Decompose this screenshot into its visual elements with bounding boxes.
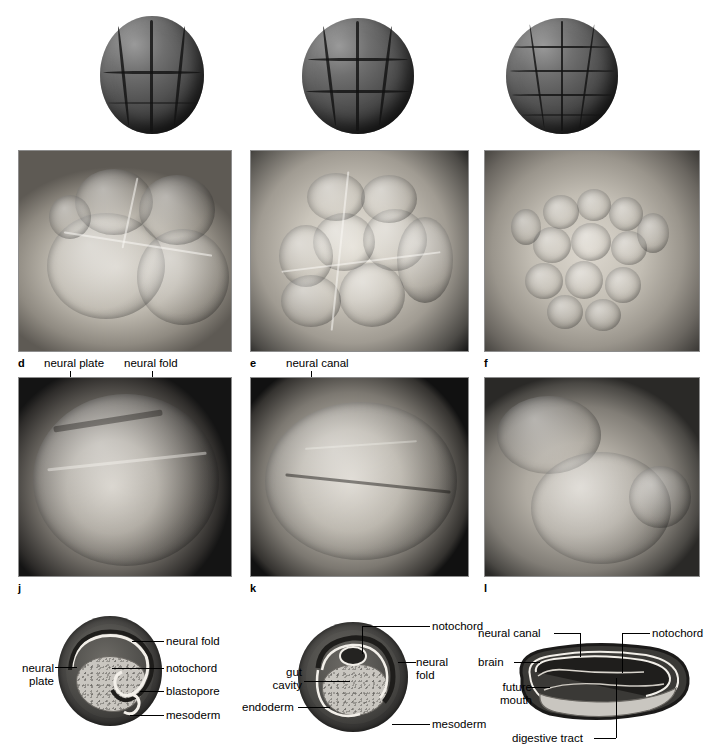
photo-panel-e: [250, 150, 469, 352]
panel-letter-k: k: [250, 583, 256, 594]
panel-letter-l: l: [484, 583, 487, 594]
label-gut-cavity: gut cavity: [250, 666, 302, 692]
cell-blob: [307, 173, 365, 221]
cell-blob: [637, 213, 669, 253]
panel-letter-f: f: [484, 358, 488, 369]
label-notochord: notochord: [652, 627, 703, 640]
label-digestive-tract: digestive tract: [512, 732, 583, 745]
embryo-tail: [629, 466, 691, 528]
furrow-equatorial-lower: [306, 90, 410, 93]
photo-panel-k: [250, 377, 469, 577]
model-8-cell: [100, 16, 204, 134]
leader-neural-plate: [55, 667, 77, 668]
diagram-neurula: neural plate neural fold notochord blast…: [0, 600, 236, 754]
leader-digestive-tract-v: [616, 678, 617, 738]
label-future-mouth: future mouth: [478, 681, 532, 707]
label-brain: brain: [478, 656, 504, 669]
label-blastopore: blastopore: [166, 685, 220, 698]
label-neural-fold: neural fold: [166, 635, 220, 648]
furrow-lower: [108, 102, 196, 104]
label-mesoderm: mesoderm: [166, 709, 220, 722]
leader-digestive-tract-h: [594, 738, 616, 739]
leader-blastopore: [140, 691, 164, 692]
label-endoderm: endoderm: [242, 701, 294, 714]
leader-gut-cavity: [304, 681, 350, 682]
neural-tube-shape: [298, 622, 408, 732]
model-16-cell: [302, 18, 414, 134]
callout-neural-fold: neural fold: [124, 357, 178, 370]
leader-notochord: [112, 668, 164, 669]
label-notochord: notochord: [166, 662, 217, 675]
photo-panel-l: [484, 377, 700, 577]
leader-mesoderm: [130, 715, 164, 716]
furrow-grid-h4: [522, 114, 602, 116]
label-neural-fold: neural fold: [416, 656, 472, 682]
leader-neural-canal-v: [580, 633, 581, 657]
cell-blob: [585, 299, 621, 331]
furrow-grid-h2: [510, 70, 614, 72]
photo-panel-j: [18, 377, 232, 577]
model-blastula: [506, 18, 618, 134]
cell-blob: [547, 295, 583, 329]
furrow-grid-h1: [514, 46, 610, 48]
leader-notochord-v: [622, 633, 623, 673]
furrow-grid-h3: [512, 94, 612, 96]
cell-blob: [571, 223, 611, 261]
diagram-neural-tube: notochord neural fold gut cavity endoder…: [236, 600, 476, 754]
cell-blob: [361, 175, 417, 223]
cell-blob: [577, 189, 611, 221]
label-neural-plate: neural plate: [2, 662, 54, 688]
cell-blob: [565, 261, 603, 299]
panel-letter-j: j: [18, 583, 21, 594]
photo-panel-f: [484, 150, 700, 352]
leader-future-mouth: [528, 687, 550, 688]
diagram-tailbud: neural canal brain future mouth notochor…: [476, 600, 712, 754]
photo-panel-d: [18, 150, 232, 352]
figure-root: d neural plate neural fold e neural cana…: [0, 0, 712, 754]
leader-neural-fold: [398, 662, 416, 663]
cell-blob: [339, 263, 405, 327]
cell-blob: [525, 263, 563, 299]
cell-blob: [139, 175, 215, 245]
leader-neural-fold: [132, 641, 164, 642]
callout-neural-plate: neural plate: [44, 357, 104, 370]
furrow-vertical: [150, 20, 153, 132]
furrow-equatorial-upper: [308, 58, 408, 61]
furrow-equatorial: [103, 71, 201, 74]
panel-letter-e: e: [250, 358, 256, 369]
label-neural-canal: neural canal: [478, 627, 541, 640]
neural-fold-shape: [58, 616, 162, 726]
callout-neural-canal: neural canal: [286, 357, 349, 370]
cell-blob: [397, 217, 453, 303]
leader-neural-canal-h: [554, 633, 580, 634]
leader-notochord-h: [362, 626, 430, 627]
leader-brain: [514, 662, 540, 663]
cell-blob: [543, 195, 579, 229]
cell-blob: [605, 267, 641, 303]
furrow-vertical: [356, 21, 359, 131]
panel-letter-d: d: [18, 358, 25, 369]
tailbud-shape: [504, 638, 694, 728]
cell-blob: [511, 209, 541, 245]
leader-notochord-v: [362, 626, 363, 654]
leader-endoderm: [298, 707, 330, 708]
leader-mesoderm: [392, 724, 430, 725]
leader-notochord-h: [622, 633, 650, 634]
